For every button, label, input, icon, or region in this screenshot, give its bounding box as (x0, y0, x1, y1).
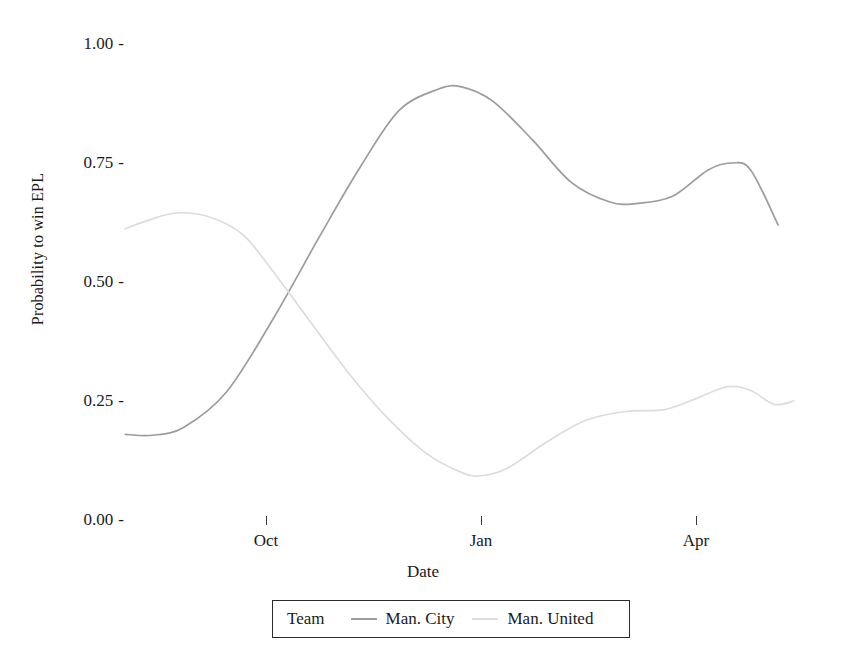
x-axis-tick-mark (266, 516, 267, 525)
x-axis-tick-mark (481, 516, 482, 525)
legend-label: Man. United (507, 609, 593, 629)
legend-title: Team (287, 609, 325, 629)
legend[interactable]: Team Man. CityMan. United (272, 600, 630, 638)
chart-figure: Probability to win EPL 0.00-0.25-0.50-0.… (0, 0, 846, 670)
legend-entry[interactable]: Man. City (351, 609, 455, 629)
y-axis-title: Probability to win EPL (29, 129, 47, 369)
y-axis-tick-label: 0.00- (62, 511, 124, 528)
x-axis-tick-label: Apr (656, 532, 736, 549)
legend-line-swatch-icon (472, 618, 498, 620)
legend-entry-group: Man. CityMan. United (351, 609, 612, 629)
series-line-man-city (125, 86, 778, 436)
y-axis-tick-label: 0.25- (62, 392, 124, 409)
series-line-man-united (125, 213, 793, 476)
x-axis-tick-label: Oct (226, 532, 306, 549)
y-axis-tick-label: 0.50- (62, 273, 124, 290)
x-axis-tick-label: Jan (441, 532, 521, 549)
legend-line-swatch-icon (351, 618, 377, 620)
y-axis-tick-label: 0.75- (62, 154, 124, 171)
x-axis-title: Date (0, 562, 846, 582)
y-axis-tick-label: 1.00- (62, 35, 124, 52)
x-axis-tick-mark (696, 516, 697, 525)
legend-entry[interactable]: Man. United (472, 609, 593, 629)
legend-label: Man. City (386, 609, 455, 629)
